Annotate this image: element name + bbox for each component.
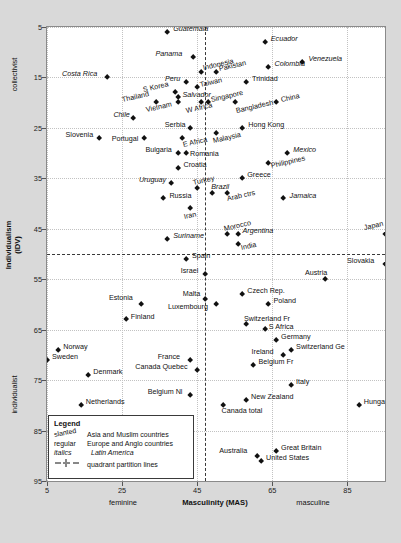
data-point-label: Israel [181,267,199,275]
data-point-label: Bulgaria [145,146,171,154]
data-point-label: Suriname [173,232,204,240]
data-point-label: India [240,241,257,252]
x-tick-mark [272,482,273,486]
y-tick-label: 85 [26,427,42,436]
x-axis-right-side-label: masculine [268,498,358,507]
x-tick-label: 5 [35,486,59,495]
x-tick-mark [197,482,198,486]
data-point-label: Belgium Fr [259,358,294,366]
y-tick-label: 45 [26,225,42,234]
data-point-label: Greece [247,171,271,179]
data-point-label: Iran [183,210,197,221]
y-tick-label: 25 [26,124,42,133]
grid-line-horizontal [47,229,385,230]
data-point-label: Japan [363,220,384,232]
plot-area: GuatemalaEcuadorPanamaVenezuelaCosta Ric… [46,26,386,482]
x-tick-mark [47,482,48,486]
data-point-label: Portugal [112,135,139,143]
data-point-label: Canada Quebec [135,363,187,371]
data-point-label: S Africa [269,323,294,331]
grid-line-horizontal [47,27,385,28]
scatter-plot-figure: Individualism (IDV) collectivist individ… [0,0,401,543]
data-point-label: Belgium Nl [148,388,183,396]
x-tick-label: 85 [335,486,359,495]
data-point-label: Panama [155,50,182,58]
data-point-label: Hong Kong [248,121,284,129]
data-point-label: New Zealand [251,393,293,401]
data-point-label: Trinidad [252,75,278,83]
data-point-label: Serbia [165,121,186,129]
legend-row: regularEurope and Anglo countries [54,440,188,447]
legend-key: regular [54,440,87,447]
grid-line-horizontal [47,481,385,482]
data-point-label: Ecuador [271,35,298,43]
data-point-label: Hungary [364,398,386,406]
data-point-label: Argentina [243,227,274,235]
grid-line-horizontal [47,330,385,331]
data-point-label: Mexico [293,146,316,154]
data-point-label: Salvador [182,91,210,99]
data-point-label: United States [266,454,309,462]
legend-description: Asia and Muslim countries [87,431,188,438]
data-point-label: Philippines [270,155,306,171]
grid-line-horizontal [47,279,385,280]
data-point-label: Australia [219,447,247,455]
data-point-label: Romania [190,150,219,158]
legend-key: italics [54,449,87,456]
data-point-label: Chile [113,111,129,119]
legend-rows: slantedAsia and Muslim countriesregularE… [54,431,188,469]
x-tick-label: 45 [185,486,209,495]
data-point-label: Netherlands [86,398,125,406]
x-tick-label: 65 [260,486,284,495]
data-point-label: Malta [183,290,201,298]
data-point-label: Germany [281,333,311,341]
legend-box: Legend slantedAsia and Muslim countriesr… [48,415,194,479]
data-point-label: Austria [305,269,327,277]
data-point-label: Guatemala [173,26,208,33]
data-point-label: Uruguay [139,176,166,184]
data-point-label: Arab ctrs [226,189,256,203]
data-point-label: Great Britain [281,444,321,452]
data-point-label: Russia [169,192,191,200]
data-point-label: Vietnam [146,100,173,114]
y-tick-label: 35 [26,174,42,183]
data-point-label: Venezuela [308,55,342,63]
data-point-label: Denmark [93,368,122,376]
x-tick-mark [122,482,123,486]
legend-description: Latin America [87,449,188,456]
y-tick-label: 95 [26,477,42,486]
data-point-label: Poland [274,297,296,305]
data-point-label: Thailand [121,90,150,104]
data-point-label: Canada total [222,407,263,415]
data-point-label: Costa Rica [62,70,97,78]
data-point-label: Finland [131,313,155,321]
x-axis-title: Masculinity (MAS) [155,498,275,507]
legend-description: quadrant partition lines [87,461,188,468]
data-point-label: Jamaica [290,192,317,200]
y-tick-label: 55 [26,275,42,284]
data-point-label: W Africa [185,101,213,115]
data-point-label: Brazil [211,183,229,191]
legend-row: quadrant partition lines [54,458,188,468]
data-point-label: Ireland [252,348,274,356]
data-point-label: Spain [192,252,210,260]
data-point-label: Sweden [52,353,78,361]
data-point-label: Norway [63,343,87,351]
data-point-label: Slovakia [347,257,374,265]
legend-row: italicsLatin America [54,449,188,456]
data-point-label: Bangladesh [235,98,274,114]
data-point-label: Italy [296,378,309,386]
y-axis-top-side-label: collectivist [10,47,19,103]
x-tick-mark [347,482,348,486]
grid-line-horizontal [47,128,385,129]
data-point-label: Estonia [109,294,133,302]
y-axis-bottom-side-label: individualist [10,367,19,423]
data-point-label: Singapore [211,88,245,103]
y-tick-label: 5 [26,23,42,32]
dash-line-icon [54,458,87,467]
data-point-label: France [158,353,180,361]
data-point-label: Luxembourg [168,303,208,311]
grid-line-horizontal [47,380,385,381]
y-tick-label: 65 [26,326,42,335]
legend-description: Europe and Anglo countries [87,440,188,447]
